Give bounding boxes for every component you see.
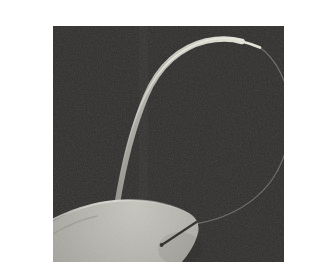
photograph <box>40 16 284 262</box>
photograph-figure <box>40 16 284 262</box>
film-grain-overlay <box>53 26 284 262</box>
